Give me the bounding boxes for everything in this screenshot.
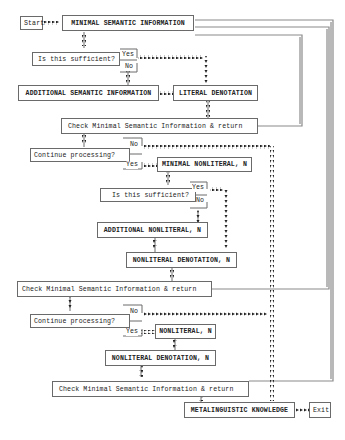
decision-continue-1: Continue processing? <box>30 148 130 162</box>
decision-label: Continue processing? <box>34 152 115 159</box>
branch-yes: Yes <box>122 51 134 59</box>
box-label: ADDITIONAL NONLITERAL, N <box>104 227 201 234</box>
box-nonliteral: NONLITERAL, N <box>155 324 216 339</box>
flowchart-canvas: Start MINIMAL SEMANTIC INFORMATION Is th… <box>0 0 345 440</box>
start-label: Start <box>24 20 44 27</box>
decision-continue-2: Continue processing? <box>30 314 130 328</box>
box-additional-nonliteral: ADDITIONAL NONLITERAL, N <box>97 222 208 238</box>
box-label: ADDITIONAL SEMANTIC INFORMATION <box>26 90 152 97</box>
box-minimal-nonliteral: MINIMAL NONLITERAL, N <box>157 157 252 172</box>
box-check-minimal-2: Check Minimal Semantic Information & ret… <box>17 281 212 297</box>
branch-yes: Yes <box>126 161 138 169</box>
branch-yes: Yes <box>192 184 204 192</box>
box-label: NONLITERAL, N <box>159 328 212 335</box>
box-label: Check Minimal Semantic Information & ret… <box>65 123 242 130</box>
decision-sufficient-2: Is this sufficient? <box>100 188 196 202</box>
start-node: Start <box>20 16 43 30</box>
box-check-minimal-1: Check Minimal Semantic Information & ret… <box>61 118 258 134</box>
decision-sufficient-1: Is this sufficient? <box>32 52 120 66</box>
decision-label: Continue processing? <box>34 318 115 325</box>
box-label: NONLITERAL DENOTATION, N <box>133 257 230 264</box>
branch-yes: Yes <box>126 328 138 336</box>
box-nonliteral-denotation-2: NONLITERAL DENOTATION, N <box>105 350 216 366</box>
branch-no: No <box>130 141 138 149</box>
connector-lines <box>0 0 345 440</box>
box-minimal-semantic-information: MINIMAL SEMANTIC INFORMATION <box>62 15 194 31</box>
branch-no: No <box>125 63 133 71</box>
exit-label: Exit <box>313 407 329 414</box>
exit-node: Exit <box>309 402 331 418</box>
box-literal-denotation: LITERAL DENOTATION <box>173 85 258 101</box>
box-label: NONLITERAL DENOTATION, N <box>112 355 209 362</box>
decision-label: Is this sufficient? <box>104 192 189 199</box>
box-label: Check Minimal Semantic Information & ret… <box>56 386 233 393</box>
box-label: MINIMAL SEMANTIC INFORMATION <box>71 20 185 27</box>
branch-no: No <box>130 308 138 316</box>
box-metalinguistic-knowledge: METALINGUISTIC KNOWLEDGE <box>184 402 295 418</box>
box-check-minimal-3: Check Minimal Semantic Information & ret… <box>52 381 249 397</box>
box-label: LITERAL DENOTATION <box>179 90 252 97</box>
branch-no: No <box>196 197 204 205</box>
box-additional-semantic-information: ADDITIONAL SEMANTIC INFORMATION <box>18 85 159 101</box>
box-label: MINIMAL NONLITERAL, N <box>162 161 247 168</box>
box-label: Check Minimal Semantic Information & ret… <box>21 286 196 293</box>
box-label: METALINGUISTIC KNOWLEDGE <box>191 407 288 414</box>
box-nonliteral-denotation-1: NONLITERAL DENOTATION, N <box>126 252 237 268</box>
decision-label: Is this sufficient? <box>36 56 115 63</box>
